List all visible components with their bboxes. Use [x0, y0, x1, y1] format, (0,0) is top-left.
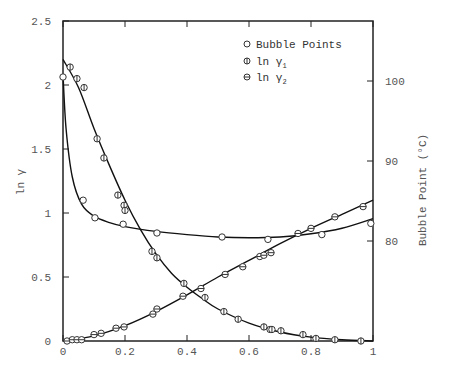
data-point: [198, 285, 204, 291]
data-point: [120, 221, 126, 227]
y-tick-label: 2: [44, 80, 51, 92]
data-points: [60, 64, 374, 344]
data-point: [300, 331, 306, 337]
data-point: [60, 74, 66, 80]
y2-tick-label: 90: [385, 156, 398, 168]
data-point: [149, 248, 155, 254]
x-tick-label: 0.2: [115, 346, 135, 358]
x-tick-label: 1: [370, 346, 377, 358]
legend-item-bubble-points: Bubble Points: [244, 39, 342, 51]
y2-tick-label: 100: [385, 76, 405, 88]
x-tick-label: 0: [60, 346, 67, 358]
data-point: [91, 331, 97, 337]
y-tick-label: 1.5: [31, 144, 51, 156]
data-point: [235, 316, 241, 322]
data-point: [219, 234, 225, 240]
data-point: [154, 306, 160, 312]
data-point: [295, 230, 301, 236]
data-point: [154, 255, 160, 261]
data-point: [98, 330, 104, 336]
data-point: [180, 293, 186, 299]
data-point: [94, 136, 100, 142]
legend-item-ln-gamma1: ln γ1: [244, 56, 287, 70]
open-circle-icon: [244, 41, 250, 47]
data-point: [261, 252, 267, 258]
data-point: [113, 325, 119, 331]
data-point: [101, 155, 107, 161]
data-point: [78, 337, 84, 343]
data-point: [202, 294, 208, 300]
data-point: [261, 324, 267, 330]
data-point: [80, 197, 86, 203]
legend-label: ln γ1: [256, 56, 287, 70]
data-point: [181, 280, 187, 286]
data-point: [358, 338, 364, 344]
y-tick-label: 0.5: [31, 272, 51, 284]
data-point: [360, 203, 366, 209]
data-point: [269, 326, 275, 332]
y-tick-label: 1: [44, 208, 51, 220]
y-tick-label: 2.5: [31, 16, 51, 28]
data-point: [278, 328, 284, 334]
x-tick-label: 0.4: [177, 346, 197, 358]
fit-curve: [63, 200, 373, 341]
y-tick-label: 0: [44, 336, 51, 348]
legend-label: ln γ2: [256, 72, 287, 86]
axis-ticks: 00.20.40.60.8100.511.522.58090100: [31, 16, 405, 358]
data-point: [115, 192, 121, 198]
data-point: [222, 271, 228, 277]
legend-item-ln-gamma2: ln γ2: [244, 72, 287, 86]
data-point: [122, 207, 128, 213]
data-point: [92, 215, 98, 221]
fit-curves: [63, 59, 373, 341]
legend-label: Bubble Points: [256, 39, 342, 51]
data-point: [121, 324, 127, 330]
chart: 00.20.40.60.8100.511.522.58090100 ln γ B…: [0, 0, 451, 373]
legend: Bubble Points ln γ1 ln γ2: [244, 39, 342, 86]
data-point: [154, 230, 160, 236]
data-point: [221, 308, 227, 314]
data-point: [332, 214, 338, 220]
data-point: [81, 84, 87, 90]
fit-curve: [63, 59, 373, 341]
y-axis-title: ln γ: [15, 168, 27, 195]
plot-frame: [63, 21, 373, 341]
x-tick-label: 0.8: [301, 346, 321, 358]
data-point: [319, 231, 325, 237]
x-tick-label: 0.6: [239, 346, 259, 358]
data-point: [265, 236, 271, 242]
fit-curve: [63, 75, 373, 238]
data-point: [240, 264, 246, 270]
data-point: [308, 225, 314, 231]
y2-axis-title: Bubble Point (°C): [417, 134, 429, 246]
data-point: [67, 64, 73, 70]
data-point: [313, 335, 319, 341]
y2-tick-label: 80: [385, 236, 398, 248]
data-point: [332, 337, 338, 343]
data-point: [268, 249, 274, 255]
data-point: [368, 220, 374, 226]
data-point: [74, 75, 80, 81]
